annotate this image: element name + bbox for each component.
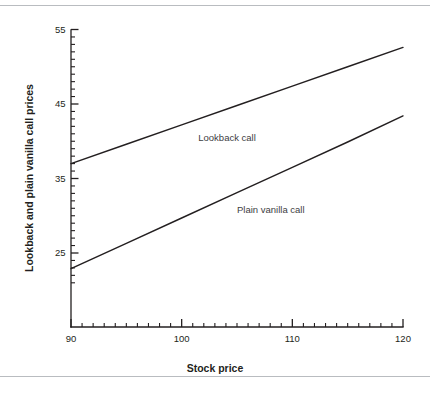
series-label: Lookback call bbox=[198, 132, 256, 143]
y-axis: 25354555 bbox=[55, 24, 79, 327]
y-tick-label: 55 bbox=[55, 24, 66, 35]
x-axis-title: Stock price bbox=[187, 362, 244, 374]
figure-container: 25354555 90100110120 Lookback callPlain … bbox=[0, 0, 430, 393]
y-tick-label: 45 bbox=[55, 98, 66, 109]
series-annotations: Lookback callPlain vanilla call bbox=[198, 132, 304, 215]
x-tick-label: 100 bbox=[174, 333, 190, 344]
x-axis: 90100110120 bbox=[66, 319, 411, 344]
chart-svg: 25354555 90100110120 Lookback callPlain … bbox=[0, 0, 430, 393]
series-lines bbox=[71, 47, 403, 268]
y-axis-tick-labels: 25354555 bbox=[55, 24, 66, 259]
y-tick-label: 35 bbox=[55, 173, 66, 184]
x-axis-tick-labels: 90100110120 bbox=[66, 333, 411, 344]
y-tick-label: 25 bbox=[55, 247, 66, 258]
y-axis-title: Lookback and plain vanilla call prices bbox=[23, 84, 35, 272]
series-line bbox=[71, 47, 403, 163]
x-tick-label: 120 bbox=[395, 333, 411, 344]
x-tick-label: 90 bbox=[66, 333, 77, 344]
x-tick-label: 110 bbox=[285, 333, 300, 344]
series-label: Plain vanilla call bbox=[237, 204, 305, 215]
